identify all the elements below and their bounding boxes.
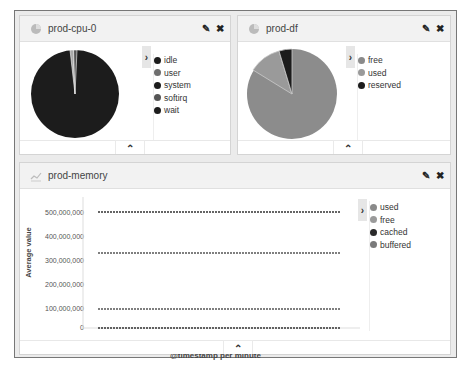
edit-icon[interactable]: ✎ — [422, 170, 430, 181]
line-chart-icon — [30, 170, 42, 182]
collapse-button[interactable]: ⌃ — [223, 340, 253, 354]
legend-dot-icon — [370, 241, 377, 248]
legend-item-idle[interactable]: idle — [154, 54, 231, 67]
edit-icon[interactable]: ✎ — [422, 23, 430, 34]
legend-item-buffered[interactable]: buffered — [370, 239, 449, 252]
legend-dot-icon — [370, 216, 377, 223]
y-tick: 300,000,000 — [34, 257, 84, 264]
panel-title: prod-cpu-0 — [48, 23, 202, 34]
collapse-button[interactable]: ⌃ — [333, 140, 363, 154]
legend-item-user[interactable]: user — [154, 67, 231, 80]
legend-dot-icon — [154, 82, 161, 89]
pie-chart-icon — [248, 23, 260, 35]
legend-item-softirq[interactable]: softirq — [154, 92, 231, 105]
legend-item-cached[interactable]: cached — [370, 226, 449, 239]
y-axis-label: Average value — [24, 223, 33, 283]
legend: idle user system softirq wait — [153, 54, 231, 154]
legend-toggle-button[interactable]: › — [358, 199, 367, 221]
legend-item-used[interactable]: used — [370, 201, 449, 214]
y-tick: 0 — [34, 324, 84, 331]
legend-dot-icon — [154, 107, 161, 114]
legend-dot-icon — [154, 94, 161, 101]
y-tick: 500,000,000 — [34, 209, 84, 216]
legend-item-free[interactable]: free — [370, 214, 449, 227]
dashboard-frame: prod-cpu-0 ✎ ✖ › idle user system softir… — [14, 10, 457, 358]
legend-toggle-button[interactable]: › — [142, 46, 151, 68]
df-pie-chart[interactable] — [246, 48, 338, 140]
legend-item-used[interactable]: used — [358, 67, 447, 80]
memory-line-chart[interactable] — [82, 193, 362, 333]
cpu-pie-chart[interactable] — [30, 48, 120, 140]
panel-prod-memory: prod-memory ✎ ✖ Average value 500,000,00… — [19, 162, 451, 355]
y-tick: 200,000,000 — [34, 281, 84, 288]
panel-prod-df: prod-df ✎ ✖ › free used reserved ⌃ — [237, 15, 451, 155]
close-icon[interactable]: ✖ — [216, 23, 224, 34]
legend-item-wait[interactable]: wait — [154, 104, 231, 117]
legend-toggle-button[interactable]: › — [346, 46, 355, 68]
legend-dot-icon — [370, 229, 377, 236]
legend-dot-icon — [154, 69, 161, 76]
panel-header: prod-memory ✎ ✖ — [20, 163, 450, 189]
close-icon[interactable]: ✖ — [436, 23, 444, 34]
legend-dot-icon — [358, 69, 365, 76]
y-tick: 400,000,000 — [34, 233, 84, 240]
legend-dot-icon — [358, 57, 365, 64]
legend: used free cached buffered — [369, 201, 449, 331]
legend-item-reserved[interactable]: reserved — [358, 79, 447, 92]
panel-header: prod-df ✎ ✖ — [238, 16, 450, 42]
panel-title: prod-memory — [48, 170, 422, 181]
panel-title: prod-df — [266, 23, 422, 34]
y-tick: 100,000,000 — [34, 305, 84, 312]
edit-icon[interactable]: ✎ — [202, 23, 210, 34]
panel-header: prod-cpu-0 ✎ ✖ — [20, 16, 230, 42]
pie-chart-icon — [30, 23, 42, 35]
collapse-button[interactable]: ⌃ — [115, 140, 145, 154]
legend-item-system[interactable]: system — [154, 79, 231, 92]
legend-item-free[interactable]: free — [358, 54, 447, 67]
legend: free used reserved — [357, 54, 447, 154]
panel-prod-cpu-0: prod-cpu-0 ✎ ✖ › idle user system softir… — [19, 15, 231, 155]
legend-dot-icon — [358, 82, 365, 89]
legend-dot-icon — [154, 57, 161, 64]
close-icon[interactable]: ✖ — [436, 170, 444, 181]
legend-dot-icon — [370, 204, 377, 211]
